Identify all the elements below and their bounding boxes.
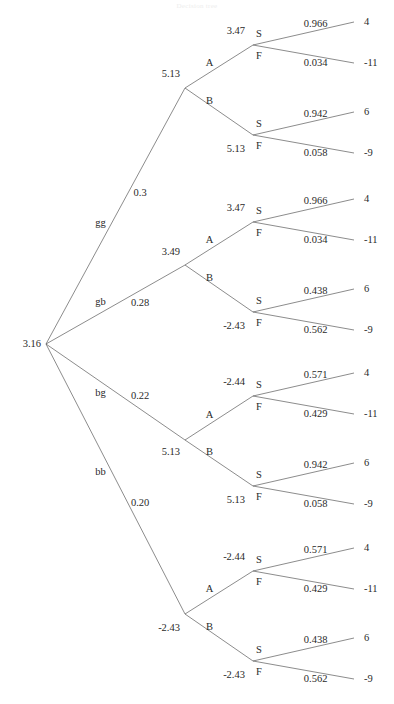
outcome-label-bg-B-S: S [256, 470, 262, 481]
outcome-probability-gg-B-S: 0.942 [304, 108, 328, 119]
decision-label-bg-B: B [206, 447, 213, 458]
outcome-probability-gb-A-S: 0.966 [304, 195, 328, 206]
terminal-payoff-bb-B-F: -9 [364, 674, 373, 685]
outcome-probability-bb-A-S: 0.571 [304, 544, 328, 555]
outcome-probability-gb-A-F: 0.034 [304, 235, 328, 246]
terminal-payoff-bb-B-S: 6 [364, 633, 369, 644]
branch-name-bg: bg [95, 388, 106, 399]
outcome-probability-bb-B-S: 0.438 [304, 634, 328, 645]
decision-label-gb-A: A [206, 235, 214, 246]
branch-name-gg: gg [95, 218, 106, 229]
outcome-probability-gg-A-F: 0.034 [304, 58, 328, 69]
outcome-probability-bg-B-S: 0.942 [304, 459, 328, 470]
outcome-label-gb-A-F: F [256, 228, 262, 239]
outcome-label-gg-A-F: F [256, 51, 262, 62]
terminal-payoff-gb-B-F: -9 [364, 325, 373, 336]
outcome-label-gb-B-S: S [256, 296, 262, 307]
outcome-label-bg-A-S: S [256, 380, 262, 391]
outcome-probability-gb-B-F: 0.562 [304, 325, 328, 336]
terminal-payoff-bg-B-F: -9 [364, 499, 373, 510]
node-value-bb: -2.43 [158, 623, 180, 634]
chance-value-gg-B: 5.13 [227, 144, 245, 155]
chance-value-gb-B: -2.43 [223, 321, 245, 332]
outcome-label-gg-B-S: S [256, 119, 262, 130]
decision-label-bb-B: B [206, 621, 213, 632]
terminal-payoff-gb-B-S: 6 [364, 284, 369, 295]
terminal-payoff-gg-B-F: -9 [364, 148, 373, 159]
outcome-label-bg-B-F: F [256, 492, 262, 503]
terminal-payoff-gg-B-S: 6 [364, 107, 369, 118]
outcome-probability-gb-B-S: 0.438 [304, 285, 328, 296]
terminal-payoff-gg-A-F: -11 [364, 58, 378, 69]
outcome-probability-bb-B-F: 0.562 [304, 674, 328, 685]
chance-value-bb-A: -2.44 [223, 552, 245, 563]
node-value-gg: 5.13 [162, 69, 180, 80]
node-value-bg: 5.13 [162, 447, 180, 458]
branch-name-gb: gb [95, 297, 106, 308]
branch-name-bb: bb [95, 466, 106, 477]
outcome-probability-gg-B-F: 0.058 [304, 148, 328, 159]
tree-edges [0, 0, 394, 704]
terminal-payoff-gg-A-S: 4 [364, 17, 369, 28]
outcome-label-bb-A-F: F [256, 577, 262, 588]
root-node-value: 3.16 [23, 339, 41, 350]
decision-tree-figure: Decision tree 3.16gg0.35.13A3.47S0.9664F… [0, 0, 394, 704]
chance-value-bg-B: 5.13 [227, 495, 245, 506]
node-value-gb: 3.49 [162, 247, 180, 258]
branch-probability-gb: 0.28 [131, 298, 149, 309]
decision-label-gg-A: A [206, 58, 214, 69]
chance-value-bb-B: -2.43 [223, 670, 245, 681]
outcome-label-bb-B-S: S [256, 645, 262, 656]
outcome-label-bb-B-F: F [256, 667, 262, 678]
outcome-label-gb-A-S: S [256, 206, 262, 217]
decision-label-gg-B: B [206, 95, 213, 106]
branch-probability-gg: 0.3 [134, 188, 147, 199]
outcome-probability-bg-B-F: 0.058 [304, 499, 328, 510]
terminal-payoff-bb-A-S: 4 [364, 543, 369, 554]
terminal-payoff-bg-B-S: 6 [364, 458, 369, 469]
branch-probability-bg: 0.22 [131, 390, 149, 401]
outcome-label-bg-A-F: F [256, 402, 262, 413]
outcome-label-gg-A-S: S [256, 29, 262, 40]
terminal-payoff-bg-A-F: -11 [364, 409, 378, 420]
outcome-probability-bg-A-F: 0.429 [304, 409, 328, 420]
outcome-probability-bb-A-F: 0.429 [304, 584, 328, 595]
terminal-payoff-bb-A-F: -11 [364, 584, 378, 595]
branch-probability-bb: 0.20 [131, 498, 149, 509]
terminal-payoff-bg-A-S: 4 [364, 368, 369, 379]
outcome-label-gb-B-F: F [256, 318, 262, 329]
chance-value-bg-A: -2.44 [223, 377, 245, 388]
outcome-probability-gg-A-S: 0.966 [304, 18, 328, 29]
outcome-probability-bg-A-S: 0.571 [304, 369, 328, 380]
chance-value-gb-A: 3.47 [227, 203, 245, 214]
chance-value-gg-A: 3.47 [227, 26, 245, 37]
outcome-label-gg-B-F: F [256, 141, 262, 152]
decision-label-bb-A: A [206, 584, 214, 595]
decision-label-gb-B: B [206, 272, 213, 283]
decision-label-bg-A: A [206, 409, 214, 420]
terminal-payoff-gb-A-F: -11 [364, 235, 378, 246]
outcome-label-bb-A-S: S [256, 555, 262, 566]
terminal-payoff-gb-A-S: 4 [364, 194, 369, 205]
